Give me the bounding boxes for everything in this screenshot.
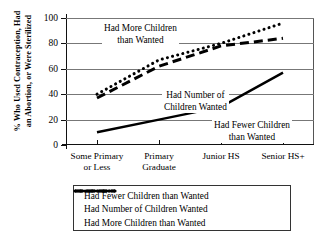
legend-item: Had Number of Children Wanted	[74, 203, 290, 217]
annotation-had-fewer-children: Had Fewer Children than Wanted	[212, 120, 292, 143]
annotation-more-line-1: Had More Children	[104, 23, 177, 35]
y-axis-tick-label: 80	[49, 38, 59, 48]
legend-label: Had Number of Children Wanted	[84, 204, 208, 214]
annotation-more-line-2: than Wanted	[104, 35, 177, 47]
chart-legend: Had Fewer Children than WantedHad Number…	[73, 185, 291, 231]
y-axis-tick	[61, 145, 66, 146]
y-axis-tick-label: 100	[44, 13, 58, 23]
y-axis-tick-label: 60	[49, 64, 59, 74]
y-axis-title-line-1: % Who Used Contraception, Had	[12, 0, 23, 146]
y-axis-tick-label: 0	[53, 140, 58, 150]
y-axis-tick-label: 20	[49, 115, 59, 125]
annotation-had-more-children: Had More Children than Wanted	[102, 23, 179, 46]
x-axis-tick-label: Junior HS	[202, 151, 239, 162]
y-axis-title-line-2: an Abortion, or Were Sterilized	[23, 0, 34, 146]
legend-label: Had More Children than Wanted	[84, 218, 205, 228]
annotation-number-line-1: Had Number of	[164, 90, 227, 102]
x-axis-tick-label: PrimaryGraduate	[142, 151, 176, 173]
annotation-number-line-2: Children Wanted	[164, 102, 227, 114]
chart-container: % Who Used Contraception, Had an Abortio…	[0, 0, 319, 236]
legend-swatch-dotted	[74, 186, 116, 196]
annotation-had-number-children: Had Number of Children Wanted	[162, 90, 229, 113]
y-axis-title: % Who Used Contraception, Had an Abortio…	[12, 0, 34, 146]
annotation-fewer-line-2: than Wanted	[214, 132, 290, 144]
x-axis-tick-label: Senior HS+	[261, 151, 304, 162]
x-axis-tick-label: Some Primaryor Less	[71, 151, 124, 173]
annotation-fewer-line-1: Had Fewer Children	[214, 120, 290, 132]
plot-area: 020406080100 Some Primaryor LessPrimaryG…	[66, 18, 314, 145]
legend-item: Had More Children than Wanted	[74, 216, 290, 230]
y-axis-tick-label: 40	[49, 89, 59, 99]
